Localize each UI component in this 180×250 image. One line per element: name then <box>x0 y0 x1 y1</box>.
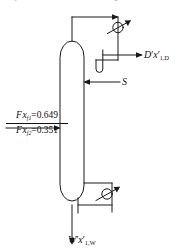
distillate-arrowhead <box>136 52 143 58</box>
feed-label-numerator: F xf1=0.649 <box>6 110 68 123</box>
bottoms-label: W′x′1,W <box>68 235 96 246</box>
feed-label: F xf1=0.649 F xf2=0.351 <box>6 110 68 137</box>
process-flow-diagram: the feed and the solvent entering the co… <box>0 0 180 250</box>
feed-label-denominator: F xf2=0.351 <box>6 124 68 137</box>
distillate-seal-leg <box>96 50 103 72</box>
sidestream-label: S <box>122 77 127 87</box>
distillate-label: D′x′1,D <box>144 50 169 61</box>
